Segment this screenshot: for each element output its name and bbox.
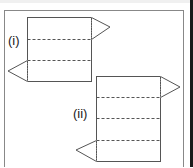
frame-border bbox=[5, 11, 184, 168]
net-ii: (ii) bbox=[73, 77, 180, 162]
net-i-label: (i) bbox=[8, 33, 20, 48]
net-ii-label: (ii) bbox=[73, 106, 87, 121]
net-ii-fold-lines bbox=[97, 98, 161, 141]
diagram-canvas: (i) (ii) bbox=[0, 0, 193, 167]
net-i-right-triangle bbox=[92, 18, 111, 40]
net-i: (i) bbox=[8, 18, 110, 82]
prism-nets-figure: (i) (ii) bbox=[0, 0, 193, 167]
net-i-fold-lines bbox=[28, 40, 92, 61]
net-ii-right-triangle bbox=[161, 77, 181, 98]
net-i-left-triangle bbox=[8, 61, 28, 82]
net-ii-left-triangle bbox=[76, 141, 97, 162]
top-edge bbox=[0, 0, 193, 3]
right-edge bbox=[190, 0, 193, 167]
net-i-rectangle bbox=[28, 18, 92, 82]
